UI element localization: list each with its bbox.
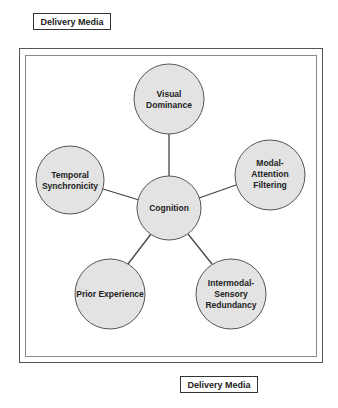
- node-text: Modal-: [256, 158, 284, 168]
- node-text: Visual: [157, 89, 182, 99]
- delivery-media-label-bottom: Delivery Media: [180, 376, 258, 393]
- node-text: Sensory: [214, 289, 248, 299]
- connector-intermodal: [188, 234, 212, 264]
- connector-modal: [199, 185, 236, 198]
- node-text: Filtering: [253, 180, 287, 190]
- connector-prior: [128, 234, 151, 264]
- node-text: Redundancy: [205, 300, 256, 310]
- cognition-diagram: Visual Dominance Modal- Attention Filter…: [0, 0, 338, 408]
- node-text: Temporal: [51, 170, 89, 180]
- delivery-media-text-bottom: Delivery Media: [187, 380, 250, 390]
- node-text: Attention: [251, 169, 288, 179]
- node-text: Cognition: [149, 203, 189, 213]
- node-text: Dominance: [146, 100, 192, 110]
- node-text: Synchronicity: [42, 181, 98, 191]
- node-visual-dominance: [134, 64, 204, 134]
- node-text: Intermodal-: [208, 278, 254, 288]
- node-temporal-synchronicity: [36, 146, 104, 214]
- connector-temporal: [103, 189, 139, 200]
- node-text: Prior Experience: [76, 289, 144, 299]
